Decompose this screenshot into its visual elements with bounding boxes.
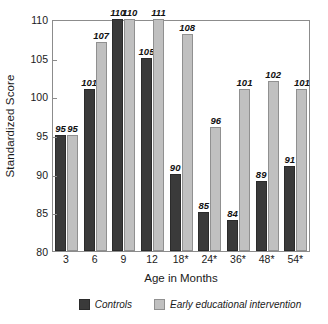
y-axis-tick-110: 110 [31, 14, 48, 26]
x-axis-tick-6: 6 [92, 253, 98, 265]
x-axis-tick-12: 12 [146, 253, 158, 265]
plot-area: 9595101107110110105111901088596841018910… [52, 20, 310, 252]
bar-value-label: 95 [67, 123, 78, 134]
y-axis-tick-80: 80 [36, 246, 48, 258]
legend-item-early-educational-intervention: Early educational intervention [154, 299, 301, 310]
x-axis-title: Age in Months [52, 272, 310, 284]
bar-controls [55, 135, 66, 251]
bar-eei [124, 19, 135, 251]
bar-controls [227, 220, 238, 251]
bar-groups: 9595101107110110105111901088596841018910… [53, 21, 309, 251]
y-tick-mark-95 [53, 137, 57, 138]
bar-group: 89102 [254, 21, 283, 251]
bar-value-label: 89 [256, 169, 267, 180]
x-axis-tick-48star: 48* [259, 253, 275, 265]
bar-group: 101107 [82, 21, 111, 251]
bar-value-label: 111 [151, 7, 165, 18]
bar-value-label: 108 [179, 22, 195, 33]
x-axis-tick-18star: 18* [173, 253, 189, 265]
y-axis-tick-90: 90 [36, 169, 48, 181]
bar-group: 110110 [110, 21, 139, 251]
bar-controls [112, 19, 123, 251]
bar-value-label: 110 [122, 7, 137, 18]
y-axis-title-text: Standardized Score [4, 75, 16, 178]
chart-figure: Standardized Score 80859095100105110 959… [0, 0, 328, 324]
bar-eei [210, 127, 221, 251]
x-axis-tick-36star: 36* [230, 253, 246, 265]
legend-swatch-controls [79, 299, 90, 310]
y-tick-mark-85 [53, 214, 57, 215]
bar-value-label: 95 [55, 123, 66, 134]
bar-eei [96, 42, 107, 251]
x-axis-tick-3: 3 [63, 253, 69, 265]
bar-group: 8596 [196, 21, 225, 251]
y-axis-tick-labels: 80859095100105110 [18, 20, 48, 252]
bar-controls [198, 212, 209, 251]
bar-controls [284, 166, 295, 251]
legend-item-controls: Controls [79, 299, 132, 310]
bar-value-label: 102 [265, 69, 281, 80]
bar-eei [67, 135, 78, 251]
legend-label-controls: Controls [95, 299, 132, 310]
bar-value-label: 85 [199, 200, 210, 211]
legend-swatch-early-educational-intervention [154, 299, 165, 310]
y-axis-tick-85: 85 [36, 207, 48, 219]
bar-value-label: 90 [170, 162, 181, 173]
y-axis-tick-95: 95 [36, 130, 48, 142]
y-axis-tick-100: 100 [30, 91, 48, 103]
bar-value-label: 84 [227, 208, 238, 219]
bar-value-label: 101 [237, 77, 253, 88]
bar-value-label: 96 [211, 115, 222, 126]
bar-eei [182, 34, 193, 251]
bar-group: 84101 [225, 21, 254, 251]
y-tick-mark-90 [53, 176, 57, 177]
y-tick-mark-100 [53, 98, 57, 99]
bar-controls [170, 174, 181, 251]
bar-eei [239, 89, 250, 251]
bar-value-label: 101 [294, 77, 310, 88]
bar-controls [84, 89, 95, 251]
y-tick-mark-105 [53, 60, 57, 61]
x-axis-tick-54star: 54* [287, 253, 303, 265]
bar-eei [153, 19, 164, 251]
bar-group: 9595 [53, 21, 82, 251]
x-axis-tick-24star: 24* [201, 253, 217, 265]
bar-group: 105111 [139, 21, 168, 251]
x-axis-tick-9: 9 [120, 253, 126, 265]
chart-legend: Controls Early educational intervention [52, 299, 328, 310]
bar-value-label: 107 [93, 30, 109, 41]
y-axis-tick-105: 105 [30, 53, 48, 65]
bar-controls [256, 181, 267, 251]
y-axis-title: Standardized Score [0, 0, 20, 252]
bar-eei [268, 81, 279, 251]
bar-controls [141, 58, 152, 251]
x-axis-tick-labels: 3691218*24*36*48*54* [52, 253, 310, 269]
bar-group: 90108 [168, 21, 197, 251]
bar-eei [296, 89, 307, 251]
legend-label-early-educational-intervention: Early educational intervention [170, 299, 301, 310]
bar-group: 91101 [282, 21, 311, 251]
bar-value-label: 91 [285, 154, 296, 165]
